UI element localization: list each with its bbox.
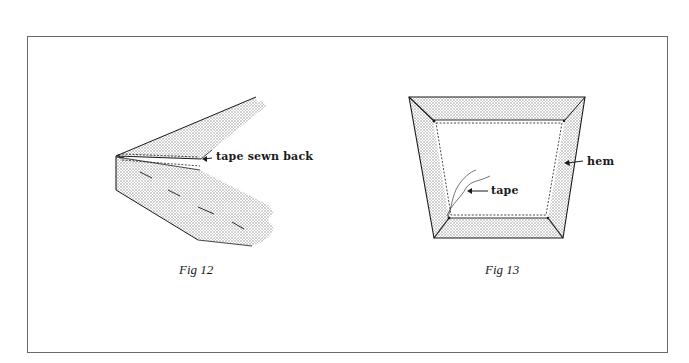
fig12-drawing: [116, 97, 274, 246]
fig13-hem-frame: [409, 97, 585, 238]
label-tape: tape: [491, 184, 519, 197]
illustration-canvas: [0, 0, 689, 363]
fig13-caption: Fig 13: [485, 262, 519, 278]
fig12-caption: Fig 12: [179, 262, 213, 278]
label-tape-sewn-back: tape sewn back: [216, 150, 313, 163]
label-hem: hem: [587, 155, 614, 168]
fig13-drawing: [409, 97, 585, 238]
